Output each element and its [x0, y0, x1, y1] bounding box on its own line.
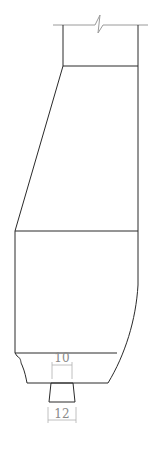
- right-curve: [108, 285, 138, 383]
- dimension-12: 12: [48, 407, 76, 423]
- nozzle: [49, 383, 75, 402]
- dimension-label-10: 10: [54, 351, 69, 365]
- dimension-label-12: 12: [54, 407, 69, 421]
- tapered-left-wall: [15, 66, 63, 231]
- break-line: [53, 15, 148, 33]
- lower-left-curve: [15, 353, 27, 383]
- dimension-10: 10: [52, 351, 72, 379]
- technical-drawing: 10 12: [0, 0, 156, 452]
